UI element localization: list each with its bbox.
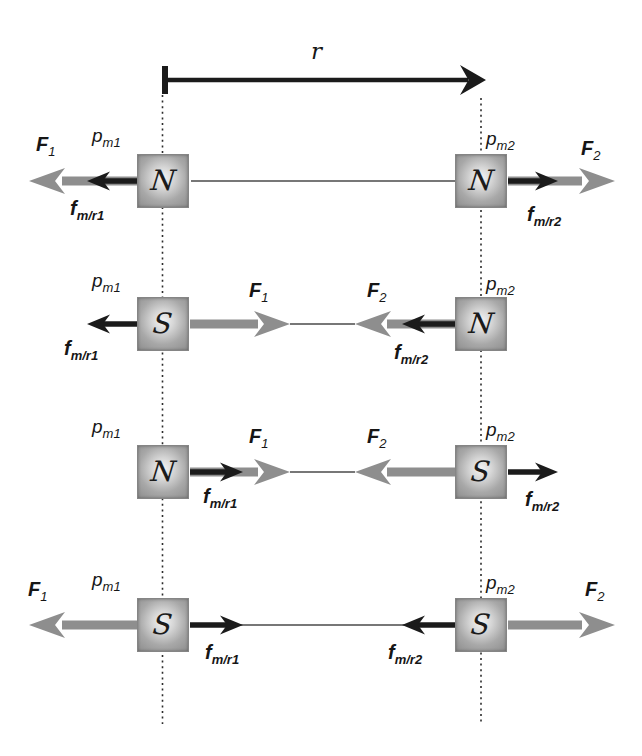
label-sub: m2 bbox=[497, 582, 515, 597]
row1-pole2-box: N bbox=[455, 154, 507, 208]
row2-pole1-box: S bbox=[137, 297, 189, 351]
label-main: f bbox=[203, 485, 210, 507]
label-main: F bbox=[249, 425, 261, 447]
row3-unit-vector-fmr2-arrow bbox=[508, 463, 558, 482]
distance-label-r: r bbox=[311, 40, 322, 63]
label-sub: m/r1 bbox=[210, 496, 237, 511]
label-main: F bbox=[367, 279, 379, 301]
label-sub: m/r2 bbox=[532, 499, 559, 514]
label-main: p bbox=[92, 416, 103, 437]
label-sub: m2 bbox=[497, 138, 515, 153]
label-main: F bbox=[581, 137, 593, 159]
pole-letter: N bbox=[467, 310, 494, 338]
label-sub: m/r2 bbox=[534, 214, 561, 229]
label-main: F bbox=[36, 133, 48, 155]
dotted-guide-lines bbox=[163, 95, 482, 724]
label-sub: m1 bbox=[103, 135, 121, 150]
row1-fmr2-label: fm/r2 bbox=[527, 204, 561, 224]
pole-letter: N bbox=[467, 167, 494, 195]
row2-F2-label: F2 bbox=[367, 280, 386, 300]
label-sub: 2 bbox=[597, 589, 604, 604]
label-sub: m1 bbox=[103, 426, 121, 441]
row2-unit-vector-fmr2-arrow bbox=[402, 315, 455, 334]
label-sub: m2 bbox=[497, 283, 515, 298]
label-main: p bbox=[486, 273, 497, 294]
row4-force-F2-arrow bbox=[508, 612, 615, 638]
row3-fmr1-label: fm/r1 bbox=[203, 486, 237, 506]
row4-pole1-box: S bbox=[137, 598, 189, 652]
row2-fmr2-label: fm/r2 bbox=[394, 342, 428, 362]
row4-F2-label: F2 bbox=[585, 579, 604, 599]
row3-pole1-box: N bbox=[137, 445, 189, 499]
label-main: F bbox=[367, 425, 379, 447]
row3-unit-vector-fmr1-arrow bbox=[190, 463, 243, 482]
row1-pole1-box: N bbox=[137, 154, 189, 208]
row3-force-F2-arrow bbox=[355, 459, 455, 485]
row2-pole2-box: N bbox=[455, 297, 507, 351]
row3-F2-label: F2 bbox=[367, 426, 386, 446]
label-sub: m/r1 bbox=[77, 208, 104, 223]
row1-pm1-label: pm1 bbox=[92, 126, 121, 145]
label-sub: 2 bbox=[379, 436, 386, 451]
row1-fmr1-label: fm/r1 bbox=[70, 198, 104, 218]
pole-letter: S bbox=[152, 611, 174, 639]
label-main: f bbox=[525, 488, 532, 510]
row2-unit-vector-fmr1-arrow bbox=[87, 315, 138, 334]
label-main: p bbox=[486, 572, 497, 593]
row4-fmr2-label: fm/r2 bbox=[388, 642, 422, 662]
distance-marker-arrow bbox=[165, 65, 486, 95]
label-main: p bbox=[486, 128, 497, 149]
row2-pm2-label: pm2 bbox=[486, 274, 515, 293]
row2-fmr1-label: fm/r1 bbox=[64, 338, 98, 358]
row4-unit-vector-fmr2-arrow bbox=[402, 616, 455, 635]
pole-letter: N bbox=[149, 167, 176, 195]
label-sub: 2 bbox=[379, 290, 386, 305]
pole-letter: N bbox=[149, 458, 176, 486]
row1-unit-vector-fmr1-arrow bbox=[87, 172, 138, 191]
row2-F1-label: F1 bbox=[249, 280, 268, 300]
label-sub: 1 bbox=[261, 290, 268, 305]
row2-pm1-label: pm1 bbox=[92, 271, 121, 290]
label-sub: m/r2 bbox=[401, 352, 428, 367]
label-main: f bbox=[70, 197, 77, 219]
label-main: f bbox=[388, 641, 395, 663]
row4-F1-label: F1 bbox=[28, 579, 47, 599]
label-sub: m1 bbox=[103, 579, 121, 594]
label-sub: 1 bbox=[261, 436, 268, 451]
diagram-arrows-layer bbox=[0, 0, 642, 756]
row3-pm2-label: pm2 bbox=[486, 420, 515, 439]
row3-F1-label: F1 bbox=[249, 426, 268, 446]
label-sub: m/r1 bbox=[212, 652, 239, 667]
row4-pm1-label: pm1 bbox=[92, 570, 121, 589]
label-main: f bbox=[64, 337, 71, 359]
row4-pm2-label: pm2 bbox=[486, 573, 515, 592]
label-main: p bbox=[486, 419, 497, 440]
row4-unit-vector-fmr1-arrow bbox=[190, 616, 243, 635]
row3-fmr2-label: fm/r2 bbox=[525, 489, 559, 509]
label-sub: 2 bbox=[593, 148, 600, 163]
label-main: F bbox=[28, 578, 40, 600]
row1-pm2-label: pm2 bbox=[486, 129, 515, 148]
row1-F2-label: F2 bbox=[581, 138, 600, 158]
row4-pole2-box: S bbox=[455, 598, 507, 652]
row2-force-F1-arrow bbox=[190, 311, 290, 337]
label-main: F bbox=[249, 279, 261, 301]
label-main: p bbox=[92, 569, 103, 590]
label-main: f bbox=[205, 641, 212, 663]
pole-letter: S bbox=[470, 458, 492, 486]
label-sub: 1 bbox=[48, 144, 55, 159]
row1-F1-label: F1 bbox=[36, 134, 55, 154]
label-sub: 1 bbox=[40, 589, 47, 604]
label-sub: m/r1 bbox=[71, 348, 98, 363]
label-sub: m1 bbox=[103, 280, 121, 295]
connector-lines bbox=[191, 181, 455, 625]
magnetic-poles-diagram: r N N pm1 pm2 F1 F2 fm/r1 fm/r2 S N pm1 … bbox=[0, 0, 642, 756]
row4-force-F1-arrow bbox=[29, 612, 138, 638]
label-main: r bbox=[311, 38, 322, 64]
label-main: f bbox=[527, 203, 534, 225]
label-sub: m2 bbox=[497, 429, 515, 444]
label-main: p bbox=[92, 270, 103, 291]
label-sub: m/r2 bbox=[395, 652, 422, 667]
row4-fmr1-label: fm/r1 bbox=[205, 642, 239, 662]
label-main: p bbox=[92, 125, 103, 146]
